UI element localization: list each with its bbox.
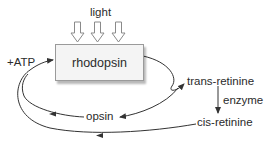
light-arrow-icon [91,22,104,42]
light-arrows [71,22,125,42]
rhodopsin-to-trans-arrow [143,56,184,90]
rhodopsin-node: rhodopsin [55,44,144,81]
arrowhead-icon [96,133,103,138]
rhodopsin-cycle-diagram: light rhodopsin +ATP trans-retinine enzy… [0,0,272,149]
opsin-return-path [120,88,178,117]
rhodopsin-label: rhodopsin [72,56,127,70]
light-arrow-icon [71,22,84,42]
light-label: light [90,7,111,19]
atp-label: +ATP [7,57,35,69]
opsin-label: opsin [86,111,114,123]
enzyme-label: enzyme [223,95,263,107]
trans-retinine-label: trans-retinine [187,76,254,88]
cis-retinine-label: cis-retinine [197,117,253,129]
light-arrow-icon [112,22,125,42]
